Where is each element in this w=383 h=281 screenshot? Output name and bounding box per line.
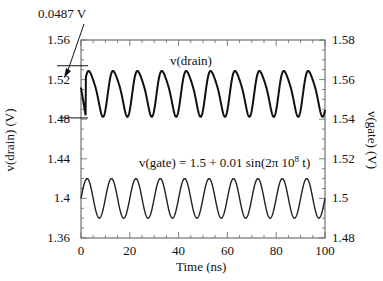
y-tick-right: 1.48 — [332, 231, 355, 244]
gate-label-main: v(gate) = 1.5 + 0.01 sin(2π 10 — [139, 155, 295, 170]
gate-series-label: v(gate) = 1.5 + 0.01 sin(2π 108 t) — [139, 155, 310, 169]
y-axis-label-left: v(drain) (V) — [2, 108, 18, 171]
chart: 1.561.521.481.441.41.36 1.581.561.541.52… — [0, 0, 383, 281]
ptp-annotation-label: 0.0487 V — [38, 7, 86, 20]
y-tick-left: 1.56 — [30, 33, 70, 46]
y-tick-right: 1.52 — [332, 152, 355, 165]
x-tick: 100 — [310, 244, 340, 257]
gate-waveform — [81, 179, 325, 219]
y-axis-label-right: v(gate) (V) — [364, 111, 380, 169]
drain-series-label: v(drain) — [170, 54, 212, 67]
x-tick: 80 — [261, 244, 291, 257]
y-tick-right: 1.56 — [332, 73, 355, 86]
y-tick-left: 1.44 — [30, 152, 70, 165]
y-tick-left: 1.4 — [30, 191, 70, 204]
x-axis-label: Time (ns) — [176, 260, 226, 273]
drain-waveform — [81, 71, 325, 117]
x-tick: 20 — [115, 244, 145, 257]
plot-frame — [81, 40, 325, 238]
x-tick: 0 — [66, 244, 96, 257]
y-tick-right: 1.5 — [332, 191, 348, 204]
y-tick-right: 1.58 — [332, 33, 355, 46]
y-tick-left: 1.36 — [30, 231, 70, 244]
y-tick-left: 1.52 — [30, 73, 70, 86]
y-tick-left: 1.48 — [30, 112, 70, 125]
x-tick: 60 — [212, 244, 242, 257]
x-tick: 40 — [164, 244, 194, 257]
y-tick-right: 1.54 — [332, 112, 355, 125]
gate-label-end: t) — [299, 155, 310, 170]
